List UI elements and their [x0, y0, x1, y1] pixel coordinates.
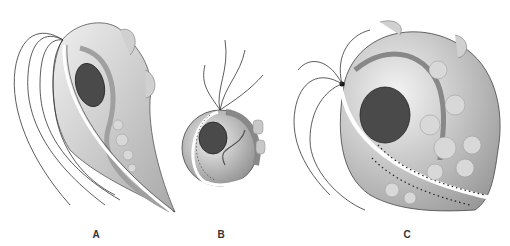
panel-b-nucleus	[199, 122, 227, 154]
panel-a-cell	[14, 23, 175, 212]
panel-b-cell	[182, 40, 265, 186]
panel-label-c: C	[403, 229, 410, 240]
panel-label-b: B	[217, 229, 224, 240]
panel-c-nucleus	[360, 87, 410, 143]
panel-b-flagella	[204, 40, 263, 110]
panel-label-a: A	[92, 229, 99, 240]
panel-c-cell	[294, 21, 500, 211]
trichomonad-figure	[0, 0, 510, 246]
